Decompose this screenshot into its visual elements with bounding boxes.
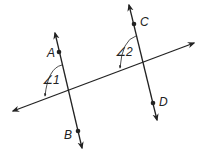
point-d: [151, 101, 156, 106]
diagram-svg: A B C D ∠1 ∠2: [0, 0, 200, 164]
point-b: [76, 129, 81, 134]
label-angle-1: ∠1: [42, 73, 60, 87]
point-a: [57, 50, 62, 55]
label-b: B: [64, 128, 72, 142]
point-c: [132, 22, 137, 27]
label-a: A: [46, 46, 55, 60]
geometry-diagram: A B C D ∠1 ∠2: [0, 0, 200, 164]
label-c: C: [140, 15, 149, 29]
label-d: D: [159, 95, 168, 109]
label-angle-2: ∠2: [115, 45, 133, 59]
